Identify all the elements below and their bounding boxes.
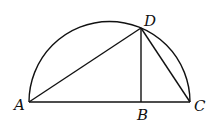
segment-ad (29, 28, 141, 102)
segment-dc (141, 28, 190, 102)
label-c: C (194, 97, 206, 115)
label-d: D (143, 12, 156, 30)
geometry-diagram: A B C D (0, 0, 214, 129)
label-b: B (136, 106, 148, 124)
semicircle-arc (29, 22, 190, 103)
label-a: A (12, 96, 25, 114)
